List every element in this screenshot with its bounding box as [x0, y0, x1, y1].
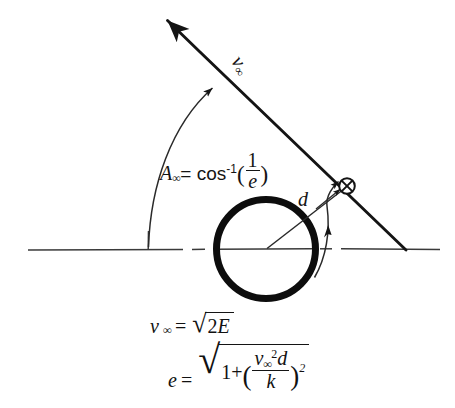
fraction-denominator: k	[252, 371, 289, 391]
equation-velocity: v∞ = √ 2E	[150, 312, 309, 338]
radical-sign-tall: √	[198, 344, 220, 392]
equation-velocity-lhs-subscript: ∞	[163, 323, 171, 338]
angle-fraction-denominator: e	[246, 171, 260, 191]
angle-equals-cos: = cos	[180, 163, 226, 184]
impact-parameter-label: d	[298, 189, 308, 209]
horizontal-axis	[28, 249, 440, 250]
radicand-plus: +	[231, 361, 242, 383]
equation-velocity-lhs: v	[150, 315, 159, 338]
outer-exponent: 2	[299, 361, 305, 375]
equation-eccentricity-radicand: 1+(v∞2dk)2	[218, 344, 309, 392]
angle-fraction-numerator: 1	[246, 150, 260, 171]
angle-open-paren: (	[237, 162, 245, 187]
diagram-canvas: A∞= cos-1(1e) v∞ d v∞ = √ 2E e = √ 1+(v∞…	[0, 0, 455, 408]
asymptote-line	[168, 21, 407, 251]
equation-eccentricity-lhs: e	[168, 369, 177, 392]
radicand-close-paren: )	[290, 361, 299, 391]
angle-exponent: -1	[226, 162, 237, 176]
radicand-open-paren: (	[242, 361, 251, 391]
numerator-variable: v	[254, 347, 263, 369]
fraction-numerator: v∞2d	[252, 348, 289, 371]
angle-label: A∞= cos-1(1e)	[160, 150, 268, 192]
angle-close-paren: )	[261, 162, 269, 187]
impact-parameter-pointer	[316, 189, 341, 209]
equation-eccentricity-radical: √ 1+(v∞2dk)2	[198, 344, 309, 392]
equation-velocity-equals: =	[175, 315, 186, 338]
radicand-one: 1	[221, 361, 231, 383]
crossed-circle-marker	[339, 178, 355, 194]
equation-eccentricity-equals: =	[181, 369, 192, 392]
radicand-variable: E	[218, 315, 230, 337]
equations-block: v∞ = √ 2E e = √ 1+(v∞2dk)2	[150, 312, 309, 398]
angle-fraction: 1e	[246, 150, 260, 192]
equation-velocity-radical: √ 2E	[192, 312, 234, 338]
equation-eccentricity: e = √ 1+(v∞2dk)2	[168, 344, 309, 392]
eccentricity-fraction: v∞2dk	[252, 348, 289, 391]
numerator-factor: d	[277, 347, 287, 369]
angle-symbol: A	[160, 162, 172, 184]
equation-velocity-radicand: 2E	[205, 312, 234, 338]
radicand-coefficient: 2	[208, 315, 218, 337]
